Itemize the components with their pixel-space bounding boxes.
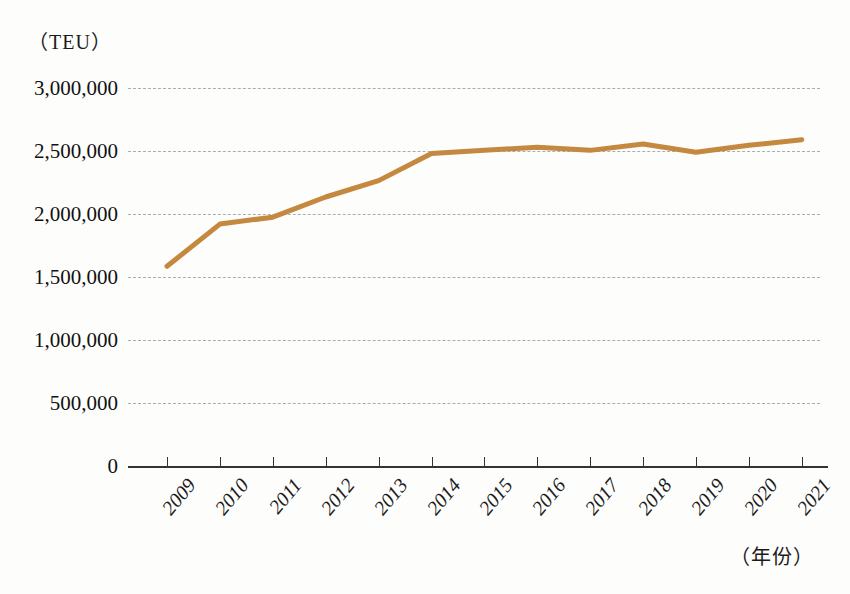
x-tick-label-2012: 2012	[316, 474, 359, 519]
plot-area	[128, 88, 820, 466]
x-tick-2021	[802, 457, 803, 466]
x-axis-unit-label: （年份）	[730, 541, 814, 570]
y-tick-label: 2,000,000	[34, 202, 118, 227]
x-tick-2018	[643, 457, 644, 466]
x-tick-2014	[432, 457, 433, 466]
y-tick-label: 3,000,000	[34, 76, 118, 101]
y-tick-label: 1,500,000	[34, 265, 118, 290]
series-polyline	[167, 140, 802, 267]
series-line-chart	[128, 88, 820, 466]
y-axis-tick-labels: 3,000,0002,500,0002,000,0001,500,0001,00…	[0, 88, 118, 466]
x-tick-label-2011: 2011	[264, 474, 306, 518]
x-tick-label-2014: 2014	[422, 474, 465, 519]
x-tick-label-2013: 2013	[369, 474, 412, 519]
x-tick-2019	[696, 457, 697, 466]
x-tick-label-2015: 2015	[475, 474, 518, 519]
x-tick-label-2017: 2017	[580, 474, 623, 519]
x-tick-label-2020: 2020	[739, 474, 782, 519]
x-tick-label-2016: 2016	[528, 474, 571, 519]
x-tick-2020	[749, 457, 750, 466]
x-tick-2017	[590, 457, 591, 466]
y-tick-label: 2,500,000	[34, 139, 118, 164]
x-tick-label-2018: 2018	[633, 474, 676, 519]
y-tick-label: 500,000	[50, 391, 118, 416]
x-tick-2011	[273, 457, 274, 466]
x-tick-label-2010: 2010	[210, 474, 253, 519]
x-tick-2015	[484, 457, 485, 466]
x-tick-label-2021: 2021	[792, 474, 835, 519]
y-tick-label: 0	[108, 454, 119, 479]
chart-figure: （TEU） 3,000,0002,500,0002,000,0001,500,0…	[0, 0, 850, 594]
x-tick-label-2009: 2009	[157, 474, 200, 519]
x-axis-tick-labels: 2009201020112012201320142015201620172018…	[128, 466, 828, 536]
y-tick-label: 1,000,000	[34, 328, 118, 353]
y-axis-unit-label: （TEU）	[28, 26, 112, 55]
x-tick-2012	[326, 457, 327, 466]
x-tick-label-2019: 2019	[686, 474, 729, 519]
x-tick-2013	[379, 457, 380, 466]
x-tick-2010	[220, 457, 221, 466]
x-tick-2009	[167, 457, 168, 466]
x-tick-2016	[537, 457, 538, 466]
